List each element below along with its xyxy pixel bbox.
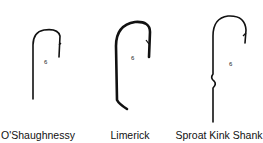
hooks-diagram: 6 6 6	[0, 0, 263, 143]
size-label: 6	[131, 55, 135, 61]
label-oshaughnessy: O'Shaughnessy	[1, 129, 75, 141]
limerick-hook-icon: 6	[116, 22, 150, 109]
sproat-kink-shank-hook-icon: 6	[212, 16, 246, 122]
size-label: 6	[44, 59, 48, 65]
oshaughnessy-hook-icon: 6	[33, 30, 61, 99]
size-label: 6	[229, 61, 233, 67]
label-limerick: Limerick	[110, 129, 149, 141]
label-sproat-kink-shank: Sproat Kink Shank	[176, 129, 263, 141]
